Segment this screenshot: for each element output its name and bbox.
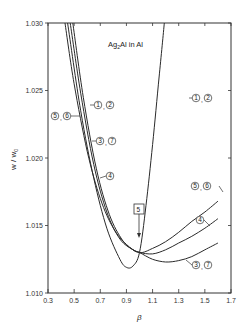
curve-label: 3,7 <box>92 137 116 146</box>
svg-text:,: , <box>105 139 107 146</box>
curve-label: 3,7 <box>186 260 212 270</box>
curve-label: 4 <box>196 216 204 224</box>
chart: 0.30.50.70.91.11.31.51.7 1.0101.0151.020… <box>0 0 249 330</box>
chart-title: Ag2Al in Al <box>108 40 143 50</box>
svg-text:,: , <box>200 184 202 191</box>
curve-label: 1,2 <box>189 94 212 103</box>
svg-text:3: 3 <box>98 137 102 144</box>
svg-text:2: 2 <box>108 101 112 108</box>
y-axis-label: w / w0 <box>9 149 19 171</box>
svg-text:2: 2 <box>206 94 210 101</box>
curve-label: 1,2 <box>90 101 114 110</box>
x-tick-label: 0.9 <box>122 297 132 304</box>
x-tick-label: 1.7 <box>226 297 236 304</box>
svg-text:7: 7 <box>110 137 114 144</box>
svg-text:6: 6 <box>65 112 69 119</box>
y-tick-label: 1.025 <box>25 87 43 94</box>
svg-text:1: 1 <box>194 94 198 101</box>
x-tick-label: 1.3 <box>174 297 184 304</box>
svg-text:3: 3 <box>194 261 198 268</box>
svg-text:6: 6 <box>205 182 209 189</box>
x-tick-label: 0.3 <box>43 297 53 304</box>
curves <box>65 23 218 268</box>
svg-text:4: 4 <box>108 172 112 179</box>
svg-text:4: 4 <box>198 216 202 223</box>
svg-text:1: 1 <box>96 101 100 108</box>
x-tick-label: 0.7 <box>95 297 105 304</box>
svg-text:,: , <box>201 96 203 103</box>
y-axis-ticks: 1.0101.0151.0201.0251.030 <box>25 20 231 297</box>
x-tick-label: 0.5 <box>69 297 79 304</box>
svg-text:,: , <box>103 103 105 110</box>
svg-text:w / w0: w / w0 <box>9 149 19 171</box>
svg-text:5: 5 <box>53 112 57 119</box>
svg-text:,: , <box>201 263 203 270</box>
curve-label: 5,6 <box>51 112 71 121</box>
curve-label: 4 <box>100 172 114 180</box>
curve-label: 5,6 <box>191 182 211 191</box>
x-axis-label: β <box>136 313 142 322</box>
curve-labels: 1,25,63,741,25,643,7 <box>51 94 223 270</box>
curve-3-7 <box>73 23 218 262</box>
x-tick-label: 1.1 <box>148 297 158 304</box>
svg-text:7: 7 <box>206 261 210 268</box>
y-tick-label: 1.020 <box>25 155 43 162</box>
y-tick-label: 1.030 <box>25 20 43 27</box>
x-tick-label: 1.5 <box>200 297 210 304</box>
y-tick-label: 1.010 <box>25 290 43 297</box>
curve-1-2 <box>68 23 165 268</box>
svg-text:,: , <box>60 114 62 121</box>
svg-text:5: 5 <box>193 182 197 189</box>
svg-text:5: 5 <box>137 206 141 213</box>
y-tick-label: 1.015 <box>25 222 43 229</box>
